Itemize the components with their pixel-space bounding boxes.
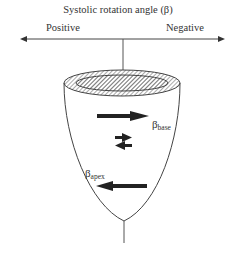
base-ring-inner <box>76 75 168 91</box>
ventricle-outline <box>64 83 180 221</box>
mid-left-arrow-icon <box>115 141 132 150</box>
apex-arrow-icon <box>96 181 147 191</box>
base-arrow-icon <box>97 111 149 121</box>
beta-apex-label: βapex <box>85 167 105 181</box>
heart-rotation-diagram <box>0 0 236 255</box>
beta-base-label: βbase <box>152 118 171 132</box>
mid-right-arrow-icon <box>115 133 132 142</box>
